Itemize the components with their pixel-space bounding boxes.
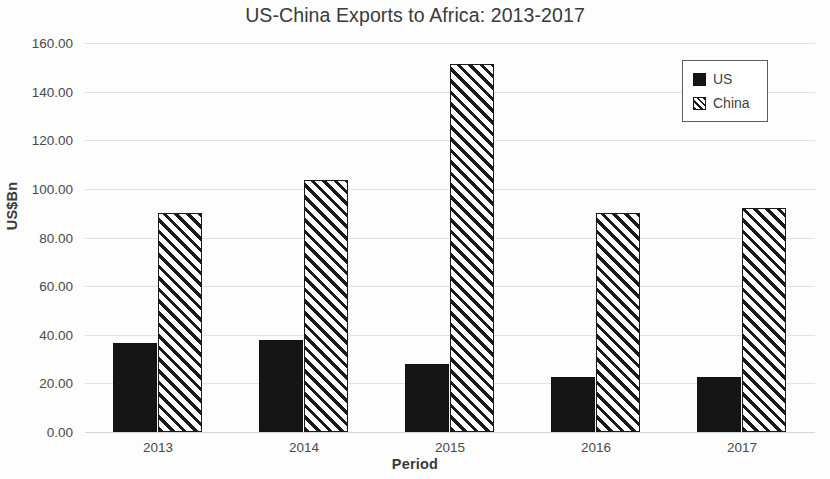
y-tick-label: 160.00 [3, 36, 73, 51]
bar-group [523, 43, 669, 432]
bar-china [596, 213, 640, 432]
x-tick-label: 2015 [375, 440, 525, 455]
y-tick-label: 140.00 [3, 84, 73, 99]
bar-us [551, 377, 595, 432]
bar-us [113, 343, 157, 432]
chart-legend: USChina [682, 60, 768, 122]
bar-china [304, 180, 348, 432]
x-tick-label: 2013 [83, 440, 233, 455]
bar-us [405, 364, 449, 432]
legend-entry[interactable]: US [693, 67, 767, 91]
legend-label: US [713, 71, 732, 87]
y-tick-label: 100.00 [3, 181, 73, 196]
x-tick-label: 2014 [229, 440, 379, 455]
solid-square-icon [693, 73, 706, 86]
bar-group [377, 43, 523, 432]
x-tick-label: 2016 [521, 440, 671, 455]
gridline [85, 432, 815, 433]
y-tick-label: 40.00 [3, 327, 73, 342]
x-tick-label: 2017 [667, 440, 817, 455]
y-tick-label: 20.00 [3, 376, 73, 391]
y-tick-label: 120.00 [3, 133, 73, 148]
y-tick-label: 80.00 [3, 230, 73, 245]
chart-title: US-China Exports to Africa: 2013-2017 [0, 4, 830, 27]
bar-china [158, 213, 202, 432]
legend-entry[interactable]: China [693, 91, 767, 115]
bar-china [742, 208, 786, 432]
bar-china [450, 64, 494, 432]
hatched-square-icon [693, 97, 706, 110]
y-tick-label: 60.00 [3, 279, 73, 294]
bar-group [85, 43, 231, 432]
x-axis-title: Period [0, 456, 830, 472]
y-tick-label: 0.00 [3, 425, 73, 440]
bar-us [259, 340, 303, 432]
bar-us [697, 377, 741, 432]
bar-chart: US-China Exports to Africa: 2013-2017 US… [0, 0, 830, 479]
legend-label: China [713, 95, 750, 111]
bar-group [231, 43, 377, 432]
